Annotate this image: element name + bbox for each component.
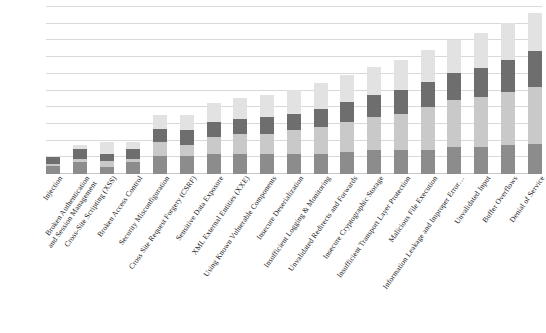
bar-stack — [394, 60, 408, 174]
bar-segment — [46, 157, 60, 164]
bar-segment — [367, 67, 381, 96]
bar-stack — [100, 142, 114, 174]
bar-segment — [501, 23, 515, 60]
bar-segment — [394, 114, 408, 151]
bar-segment — [528, 13, 542, 52]
bar-column[interactable] — [367, 6, 381, 174]
bar-segment — [474, 33, 488, 68]
bar-segment — [314, 109, 328, 127]
bar-segment — [528, 51, 542, 86]
bar-stack — [528, 13, 542, 174]
bar-segment — [314, 83, 328, 108]
bar-segment — [46, 166, 60, 174]
bar-segment — [474, 97, 488, 147]
bar-segment — [100, 161, 114, 168]
bar-stack — [474, 33, 488, 174]
bar-segment — [528, 144, 542, 174]
bar-stack — [46, 156, 60, 174]
bar-segment — [287, 114, 301, 131]
bar-column[interactable] — [287, 6, 301, 174]
x-axis-label-line: Sensitive Data Exposure — [174, 174, 226, 242]
bar-stack — [207, 103, 221, 174]
bar-segment — [153, 115, 167, 128]
bar-segment — [394, 60, 408, 90]
bar-segment — [233, 134, 247, 154]
bar-segment — [474, 147, 488, 174]
bar-column[interactable] — [73, 6, 87, 174]
bar-column[interactable] — [501, 6, 515, 174]
bar-column[interactable] — [474, 6, 488, 174]
x-axis-label-line: Malicious File Execution — [386, 174, 439, 244]
bar-segment — [126, 149, 140, 159]
bar-segment — [367, 95, 381, 117]
x-axis-label-line: Insecure Deserialization — [254, 174, 305, 241]
bar-segment — [180, 156, 194, 174]
bar-segment — [153, 129, 167, 142]
bar-segment — [73, 149, 87, 159]
bar-segment — [260, 154, 274, 174]
bar-segment — [340, 122, 354, 152]
x-axis-label: Sensitive Data Exposure — [174, 174, 226, 242]
bar-segment — [340, 102, 354, 122]
bar-segment — [394, 90, 408, 114]
bar-column[interactable] — [233, 6, 247, 174]
bar-segment — [528, 87, 542, 144]
x-axis-label-line: Injection — [41, 174, 64, 202]
bar-column[interactable] — [100, 6, 114, 174]
bar-segment — [260, 95, 274, 117]
bar-segment — [394, 150, 408, 174]
bar-segment — [367, 117, 381, 151]
bar-stack — [367, 67, 381, 174]
stacked-bar-chart: InjectionBroken Authenticationand Sessio… — [0, 0, 546, 333]
bar-stack — [260, 95, 274, 174]
bar-segment — [314, 154, 328, 174]
bar-column[interactable] — [447, 6, 461, 174]
bar-segment — [233, 98, 247, 118]
bar-column[interactable] — [46, 6, 60, 174]
bar-segment — [447, 147, 461, 174]
x-axis-label: Security Misconfiguration — [117, 174, 172, 247]
bar-segment — [100, 142, 114, 154]
x-axis-label: Malicious File Execution — [386, 174, 439, 244]
x-axis-label: Insecure Deserialization — [254, 174, 305, 242]
bar-segment — [180, 115, 194, 130]
bar-column[interactable] — [180, 6, 194, 174]
bar-column[interactable] — [260, 6, 274, 174]
bar-segment — [421, 107, 435, 151]
bar-segment — [260, 134, 274, 154]
bar-segment — [501, 60, 515, 92]
bar-stack — [287, 90, 301, 174]
bar-stack — [501, 23, 515, 174]
bar-segment — [126, 142, 140, 149]
bar-segment — [153, 142, 167, 155]
bar-segment — [287, 130, 301, 154]
bar-segment — [100, 154, 114, 161]
bar-segment — [260, 117, 274, 134]
bar-segment — [100, 167, 114, 174]
bar-segment — [73, 162, 87, 174]
bar-column[interactable] — [126, 6, 140, 174]
bar-column[interactable] — [314, 6, 328, 174]
bar-segment — [207, 154, 221, 174]
bar-stack — [73, 145, 87, 174]
bar-column[interactable] — [340, 6, 354, 174]
bar-column[interactable] — [153, 6, 167, 174]
bar-segment — [447, 100, 461, 147]
bar-stack — [126, 142, 140, 174]
bar-column[interactable] — [207, 6, 221, 174]
bar-segment — [474, 68, 488, 97]
bar-segment — [501, 145, 515, 174]
bar-segment — [501, 92, 515, 146]
x-axis-label: Injection — [41, 174, 65, 202]
x-axis-labels: InjectionBroken Authenticationand Sessio… — [46, 174, 542, 333]
bar-segment — [207, 103, 221, 121]
bar-group — [46, 6, 542, 174]
bar-segment — [367, 150, 381, 174]
bar-column[interactable] — [528, 6, 542, 174]
bar-stack — [153, 115, 167, 174]
bar-segment — [340, 75, 354, 102]
bar-column[interactable] — [394, 6, 408, 174]
bar-column[interactable] — [421, 6, 435, 174]
bar-segment — [421, 150, 435, 174]
bar-segment — [180, 145, 194, 155]
